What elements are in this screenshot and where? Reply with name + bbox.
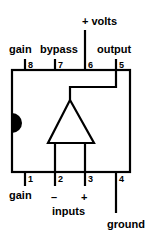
chip-notch (12, 113, 22, 133)
pin-number-4: 4 (119, 174, 124, 184)
chip-body (12, 70, 130, 172)
label-gain-bottom: gain (9, 189, 32, 201)
label-ground: ground (107, 218, 145, 230)
amplifier-pinout-diagram: 8 7 6 5 1 2 3 4 + volts gain bypass outp… (0, 0, 156, 241)
pin-number-7: 7 (58, 60, 63, 70)
amplifier-triangle-icon (48, 100, 94, 143)
pin-number-5: 5 (119, 60, 124, 70)
label-inputs: inputs (52, 205, 85, 217)
pin-number-2: 2 (58, 174, 63, 184)
label-output: output (97, 43, 132, 55)
label-plus-volts: + volts (82, 15, 117, 27)
output-wire (70, 70, 116, 100)
label-plus: + (81, 191, 87, 203)
label-minus: – (51, 191, 57, 203)
pin-number-6: 6 (88, 60, 93, 70)
pin-number-8: 8 (28, 60, 33, 70)
pin-number-3: 3 (88, 174, 93, 184)
pin-number-1: 1 (28, 174, 33, 184)
label-bypass: bypass (40, 43, 78, 55)
label-gain-top: gain (9, 43, 32, 55)
